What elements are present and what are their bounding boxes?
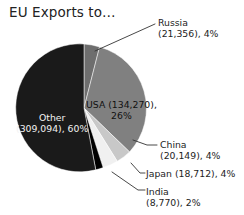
pie-chart-figure: EU Exports to… USA (134,270), 26% Other …: [0, 0, 244, 215]
slice-label-usa: USA (134,270), 26%: [86, 99, 157, 122]
slice-label-other: Other (309,094), 60%: [16, 112, 88, 135]
slice-label-other-line1: Other: [16, 112, 88, 123]
slice-label-india-line1: India: [146, 186, 201, 197]
slice-label-usa-line1: USA (134,270),: [86, 99, 157, 110]
slice-label-usa-line2: 26%: [86, 110, 157, 121]
slice-label-india-line2: (8,770), 2%: [146, 197, 201, 208]
slice-label-china-line2: (20,149), 4%: [160, 150, 220, 161]
slice-label-other-line2: (309,094), 60%: [16, 123, 88, 134]
slice-label-japan-line1: Japan (18,712), 4%: [146, 168, 235, 179]
leader-line-india: [112, 172, 145, 190]
slice-label-china: China (20,149), 4%: [160, 139, 220, 161]
slice-label-russia-line1: Russia: [158, 17, 218, 28]
slice-label-japan: Japan (18,712), 4%: [146, 168, 235, 179]
slice-label-india: India (8,770), 2%: [146, 186, 201, 208]
pie-slice-other[interactable]: [16, 44, 96, 172]
slice-label-china-line1: China: [160, 139, 220, 150]
slice-label-russia-line2: (21,356), 4%: [158, 28, 218, 39]
slice-label-russia: Russia (21,356), 4%: [158, 17, 218, 39]
leader-line-japan: [131, 163, 145, 173]
leader-line-russia: [95, 24, 155, 51]
